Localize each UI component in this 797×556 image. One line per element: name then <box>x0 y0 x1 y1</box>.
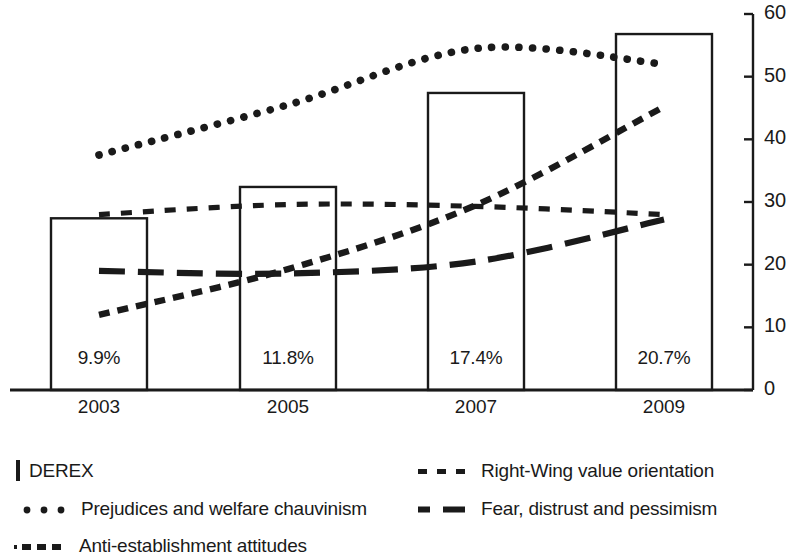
long-dash-swatch <box>418 502 472 516</box>
chart-legend: DEREX Right-Wing value orientation P <box>0 432 797 538</box>
line-series <box>99 47 664 155</box>
y-axis-tick-label: 40 <box>764 126 786 149</box>
legend-item-derex: DEREX <box>16 460 93 482</box>
y-axis-tick-label: 60 <box>764 1 786 24</box>
line-series <box>99 107 664 315</box>
y-axis-tick-label: 30 <box>764 189 786 212</box>
fine-dash-swatch <box>418 464 472 478</box>
y-axis-tick-label: 50 <box>764 64 786 87</box>
legend-label: Anti-establishment attitudes <box>79 535 307 556</box>
legend-item-prejudices-and-welfare-chauvinism: Prejudices and welfare chauvinism <box>22 498 367 520</box>
bar-value-label: 20.7% <box>616 347 712 369</box>
legend-label: Prejudices and welfare chauvinism <box>81 498 367 520</box>
legend-item-right-wing-value-orientation: Right-Wing value orientation <box>418 460 714 482</box>
y-axis-tick-label: 20 <box>764 252 786 275</box>
x-axis-tick-label: 2005 <box>228 396 348 418</box>
y-axis-tick-label: 10 <box>764 314 786 337</box>
round-dot-swatch <box>22 502 72 516</box>
box-outline-swatch <box>16 462 20 480</box>
bar-value-label: 17.4% <box>428 347 524 369</box>
bar-value-label: 11.8% <box>240 347 336 369</box>
x-axis-tick-label: 2007 <box>416 396 536 418</box>
bar-value-label: 9.9% <box>51 347 147 369</box>
x-axis-tick-label: 2003 <box>39 396 159 418</box>
legend-label: Fear, distrust and pessimism <box>481 498 717 520</box>
legend-label: DEREX <box>29 460 93 482</box>
y-axis-tick-label: 0 <box>764 377 775 400</box>
legend-label: Right-Wing value orientation <box>481 460 714 482</box>
line-series-group <box>99 47 664 315</box>
legend-item-fear-distrust-and-pessimism: Fear, distrust and pessimism <box>418 498 717 520</box>
square-dash-swatch <box>14 539 70 553</box>
line-series <box>99 220 664 274</box>
line-series <box>99 204 664 215</box>
legend-item-anti-establishment-attitudes: Anti-establishment attitudes <box>14 535 307 556</box>
x-axis-tick-label: 2009 <box>604 396 724 418</box>
bar <box>428 93 524 390</box>
